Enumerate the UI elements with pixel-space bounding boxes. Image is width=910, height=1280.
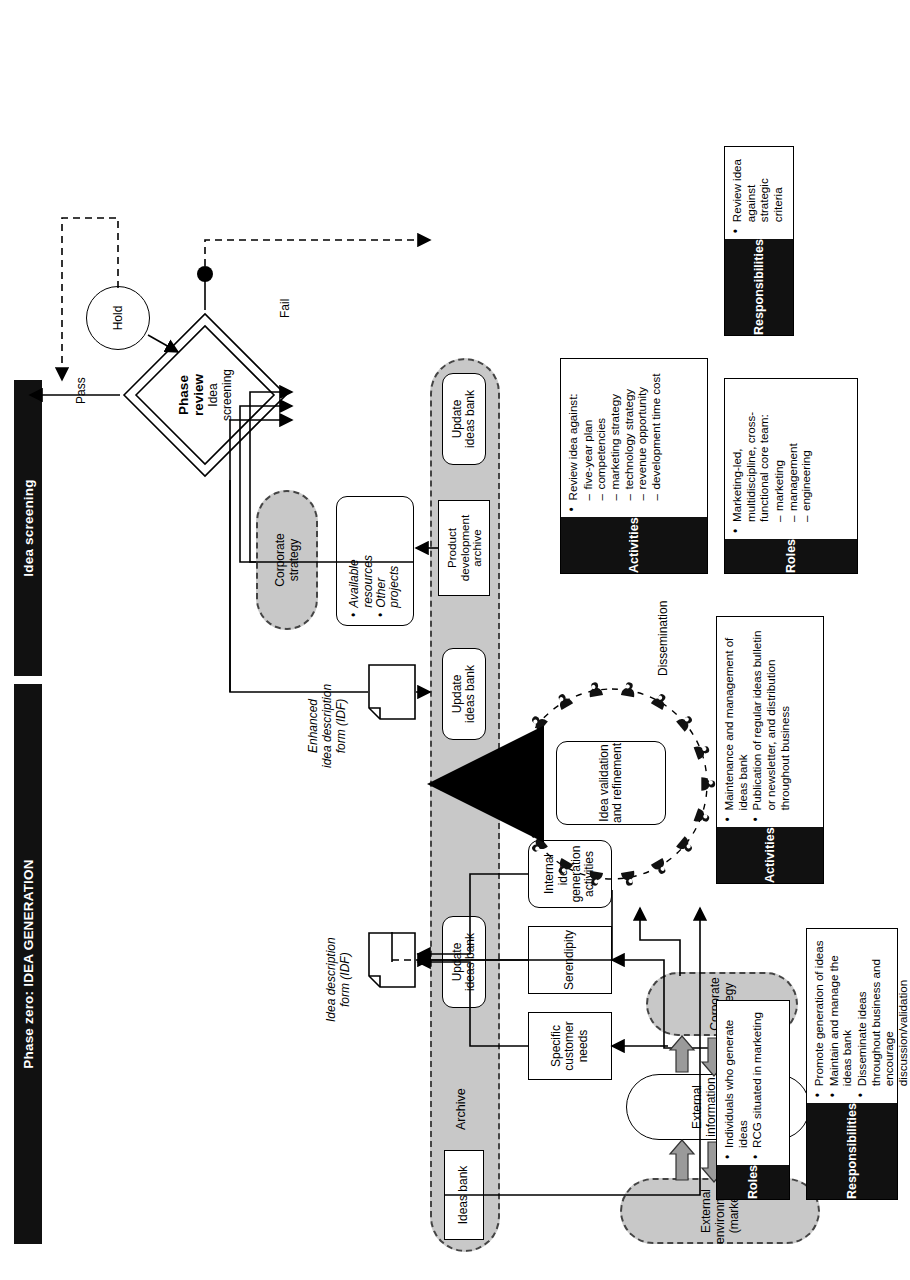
bullet-icon: •: [348, 613, 360, 617]
panel-subitem: technology strategy: [622, 365, 636, 500]
update-ideas-bank-node-3[interactable]: Update ideas bank: [442, 373, 486, 465]
update-ideas-bank-label-2a: Update: [451, 675, 464, 714]
person-icon: [651, 858, 669, 877]
panel-item: Review idea against:: [566, 365, 580, 511]
panel-activities-screening: Activities Review idea against: five-yea…: [560, 358, 708, 574]
banner-idea-screening-label: Idea screening: [21, 479, 36, 576]
idf-label-l1: Idea description: [324, 937, 338, 1022]
person-icon: [509, 777, 523, 790]
enhanced-idf-l2: idea description: [320, 684, 334, 768]
other-projects-l1: Other: [375, 566, 388, 608]
other-projects-l2: projects: [388, 566, 401, 608]
corporate-strategy-top-l2: strategy: [287, 539, 301, 582]
scn-l2: customer: [563, 1021, 576, 1070]
panel-body: Maintenance and management of ideas bank…: [717, 617, 823, 827]
hold-label: Hold: [111, 306, 125, 331]
panel-body: Individuals who generate ideas RCG situa…: [717, 1001, 789, 1165]
panel-title: Activities: [561, 517, 707, 573]
pass-label: Pass: [74, 377, 88, 404]
person-icon: [694, 808, 712, 825]
person-icon: [676, 713, 695, 732]
update-ideas-bank-label-3b: ideas bank: [464, 390, 477, 448]
person-icon: [555, 858, 573, 877]
panel-title: Roles: [725, 539, 857, 573]
panel-subitem: marketing strategy: [608, 365, 622, 500]
person-icon: [694, 742, 712, 759]
enhanced-idea-description-form-doc[interactable]: [368, 664, 420, 720]
panel-title: Responsibilities: [725, 239, 793, 335]
person-icon: [529, 713, 548, 732]
person-icon: [621, 681, 637, 697]
panel-body: Promote generation of ideas Maintain and…: [807, 929, 897, 1103]
update-ideas-bank-node-2[interactable]: Update ideas bank: [442, 648, 486, 740]
enhanced-idf-l1: Enhanced: [306, 684, 320, 768]
panel-body: Marketing-led, multidiscipline, cross-fu…: [725, 379, 857, 539]
update-ideas-bank-label-2b: ideas bank: [464, 665, 477, 723]
panel-responsibilities-generation: Responsibilities Promote generation of i…: [806, 928, 898, 1200]
person-icon: [651, 691, 669, 710]
fail-label: Fail: [278, 299, 292, 318]
document-icon: [368, 932, 416, 988]
panel-title: Responsibilities: [807, 1103, 897, 1199]
available-resources-l2: resources: [362, 555, 375, 608]
banner-phase-zero-label: Phase zero: IDEA GENERATION: [21, 859, 36, 1068]
panel-subitem: management: [786, 385, 800, 522]
person-icon: [701, 777, 715, 790]
panel-item: Maintenance and management of ideas bank: [722, 623, 749, 821]
panel-subitem: revenue opportunity: [635, 365, 649, 500]
update-ideas-bank-label-1a: Update: [451, 943, 464, 982]
phase-review-sub-l2: screening: [220, 369, 234, 421]
phase-review-decision[interactable]: Phase review Idea screening: [120, 310, 290, 480]
update-ideas-bank-node-1[interactable]: Update ideas bank: [442, 916, 486, 1008]
person-icon: [588, 681, 604, 697]
specific-customer-needs-node[interactable]: Specific customer needs: [528, 1012, 612, 1080]
update-ideas-bank-label-1b: ideas bank: [464, 933, 477, 991]
hold-node[interactable]: Hold: [86, 286, 150, 350]
panel-roles-screening: Roles Marketing-led, multidiscipline, cr…: [724, 378, 858, 574]
idf-label: Idea description form (IDF): [324, 937, 352, 1022]
document-icon: [368, 664, 416, 720]
available-resources-l1: Available: [348, 555, 361, 608]
person-icon: [555, 691, 573, 710]
panel-item: Review idea against strategic criteria: [730, 153, 785, 233]
panel-activities-generation: Activities Maintenance and management of…: [716, 616, 824, 884]
ideas-bank-label: Ideas bank: [457, 1166, 470, 1225]
panel-subitem: five-year plan: [581, 365, 595, 500]
panel-subitem: engineering: [799, 385, 813, 522]
panel-item: Marketing-led, multidiscipline, cross-fu…: [730, 385, 771, 533]
ivr-l2: and refinement: [611, 743, 624, 823]
archive-lane-label: Archive: [454, 1088, 468, 1130]
panel-subitem: development time cost: [649, 365, 663, 500]
ideas-bank-node[interactable]: Ideas bank: [444, 1150, 484, 1240]
panel-title: Roles: [717, 1165, 789, 1199]
person-icon: [588, 871, 604, 887]
panel-body: Review idea against: five-year plan comp…: [561, 359, 707, 517]
product-development-archive-node[interactable]: Product development archive: [438, 500, 490, 596]
panel-item: Disseminate ideas throughout business an…: [855, 935, 910, 1097]
idea-validation-refinement-node[interactable]: Idea validation and refinement: [556, 741, 666, 825]
idea-description-form-doc[interactable]: [368, 932, 420, 988]
panel-item: RCG situated in marketing: [750, 1007, 764, 1159]
banner-phase-zero: Phase zero: IDEA GENERATION: [14, 684, 42, 1244]
person-icon: [513, 808, 531, 825]
panel-subitem: marketing: [772, 385, 786, 522]
update-ideas-bank-label-3a: Update: [451, 400, 464, 439]
corporate-strategy-top-l1: Corporate: [273, 533, 287, 586]
corporate-strategy-node-top[interactable]: Corporate strategy: [256, 490, 318, 630]
panel-roles-generation: Roles Individuals who generate ideas RCG…: [716, 1000, 790, 1200]
serendipity-node[interactable]: Serendipity: [528, 926, 612, 994]
panel-sublist: marketing management engineering: [772, 385, 813, 533]
available-resources-node[interactable]: • Available resources • Other projects: [336, 496, 414, 626]
external-info-l1: External information: [691, 1075, 718, 1139]
panel-body: Review idea against strategic criteria: [725, 147, 793, 239]
bullet-icon: •: [375, 613, 387, 617]
phase-review-title-l2: review: [191, 374, 206, 416]
phase-review-sub-l1: Idea: [206, 383, 220, 406]
panel-responsibilities-screening: Responsibilities Review idea against str…: [724, 146, 794, 336]
phase-review-title-l1: Phase: [176, 375, 191, 415]
banner-idea-screening: Idea screening: [14, 380, 42, 676]
product-dev-archive-l2: development: [458, 515, 471, 581]
panel-title: Activities: [717, 827, 823, 883]
product-dev-archive-l3: archive: [470, 529, 483, 566]
